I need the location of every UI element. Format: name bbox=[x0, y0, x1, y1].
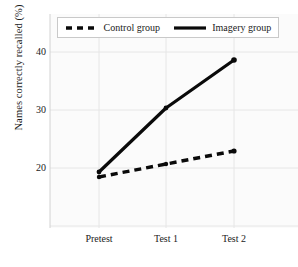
legend-entry-imagery-group: Imagery group bbox=[173, 22, 271, 33]
data-point-imagery-test1 bbox=[164, 106, 169, 111]
dashed-line-swatch-icon bbox=[65, 24, 99, 32]
legend-entry-control-group: Control group bbox=[65, 22, 160, 33]
x-tick-test-2: Test 2 bbox=[222, 233, 246, 244]
data-point-control-pretest bbox=[97, 175, 101, 179]
chart-figure: Names correctly recalled (%) 40 30 20 bbox=[0, 0, 298, 267]
solid-line-swatch-icon bbox=[173, 24, 207, 32]
x-tick-test-1: Test 1 bbox=[154, 233, 178, 244]
x-tick-pretest: Pretest bbox=[85, 233, 112, 244]
plot-background bbox=[50, 14, 298, 228]
legend-label-imagery-group: Imagery group bbox=[212, 22, 271, 33]
data-point-control-test1 bbox=[164, 162, 168, 166]
data-point-imagery-pretest bbox=[97, 170, 102, 175]
legend-label-control-group: Control group bbox=[104, 22, 160, 33]
chart-legend: Control group Imagery group bbox=[57, 17, 279, 38]
data-point-control-test2 bbox=[231, 148, 236, 153]
data-point-imagery-test2 bbox=[231, 57, 237, 63]
plot-canvas bbox=[0, 0, 298, 267]
